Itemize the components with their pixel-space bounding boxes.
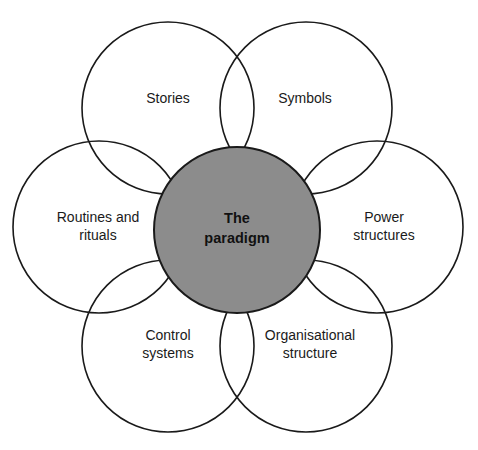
label-line: Control bbox=[142, 326, 193, 344]
label-line: Organisational bbox=[265, 326, 355, 344]
label-line: systems bbox=[142, 344, 193, 362]
label-line: Stories bbox=[146, 89, 190, 107]
label-symbols: Symbols bbox=[278, 89, 332, 107]
label-line: Power bbox=[353, 208, 414, 226]
label-line: rituals bbox=[57, 226, 140, 244]
label-paradigm: The paradigm bbox=[204, 208, 269, 248]
label-line: paradigm bbox=[204, 228, 269, 248]
label-line: Routines and bbox=[57, 208, 140, 226]
label-organisational-structure: Organisational structure bbox=[265, 326, 355, 362]
label-routines-and-rituals: Routines and rituals bbox=[57, 208, 140, 244]
label-stories: Stories bbox=[146, 89, 190, 107]
label-line: structure bbox=[265, 344, 355, 362]
label-line: structures bbox=[353, 226, 414, 244]
label-line: Symbols bbox=[278, 89, 332, 107]
label-line: The bbox=[204, 208, 269, 228]
label-power-structures: Power structures bbox=[353, 208, 414, 244]
label-control-systems: Control systems bbox=[142, 326, 193, 362]
